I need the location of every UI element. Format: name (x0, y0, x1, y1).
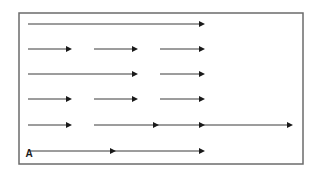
arrowhead-icon (66, 46, 72, 52)
arrow-row (28, 96, 205, 102)
arrow-row (28, 122, 293, 128)
arrow-row (28, 46, 205, 52)
arrowhead-icon (287, 122, 293, 128)
arrowhead-icon (66, 96, 72, 102)
arrowhead-icon (199, 46, 205, 52)
arrowhead-icon (199, 96, 205, 102)
start-label: A (25, 148, 32, 159)
arrow-row (28, 71, 205, 77)
arrowhead-icon (132, 71, 138, 77)
arrow-row (30, 148, 205, 154)
arrowhead-icon (132, 46, 138, 52)
arrow-row (28, 21, 205, 27)
diagram-frame (19, 13, 303, 164)
arrowhead-icon (199, 71, 205, 77)
arrowhead-icon (153, 122, 159, 128)
arrowhead-icon (199, 21, 205, 27)
arrowhead-icon (199, 122, 205, 128)
arrowhead-icon (66, 122, 72, 128)
arrowhead-icon (199, 148, 205, 154)
arrow-rows (28, 21, 293, 154)
arrowhead-icon (110, 148, 116, 154)
arrowhead-icon (132, 96, 138, 102)
arrow-diagram: A (0, 0, 318, 174)
